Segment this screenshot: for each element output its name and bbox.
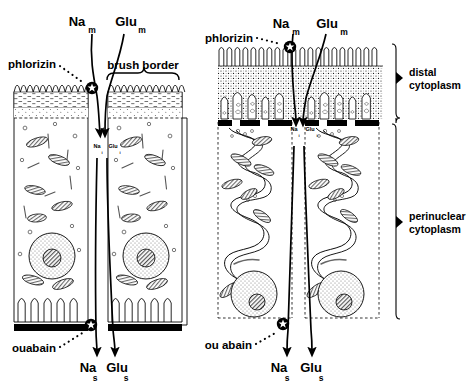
- brush-border-label: brush border: [107, 59, 179, 71]
- basement-membrane: [108, 324, 182, 331]
- basement-membrane: [14, 324, 88, 331]
- basal-lamina-segments: [305, 120, 379, 126]
- right-glucose-basal-subscript: s: [319, 373, 324, 383]
- basal-lamina-segments: [218, 120, 292, 126]
- phlorizin-inhibition-starburst-icon: [284, 41, 296, 53]
- left-sodium-intracellular-label: Na: [93, 143, 101, 149]
- right-glucose-apical-label: Glu: [316, 16, 338, 31]
- left-glucose-basal-subscript: s: [124, 373, 129, 383]
- left-phlorizin-label: phlorizin: [8, 58, 56, 70]
- terminal-web-band: [14, 92, 88, 108]
- nucleus: [231, 271, 277, 317]
- right-sodium-intracellular-label: Na: [290, 126, 298, 132]
- right-glucose-apical-subscript: m: [340, 27, 348, 37]
- nucleolus: [43, 249, 61, 267]
- right-sodium-intracellular-subscript: i: [298, 133, 299, 138]
- distal-cytoplasm-stipple: [218, 66, 383, 119]
- left-glucose-intracellular-label: Glu: [108, 143, 117, 149]
- left-sodium-intracellular-subscript: i: [101, 150, 102, 155]
- right-sodium-apical-label: Na: [273, 16, 290, 31]
- ouabain-inhibition-starburst-icon: [277, 318, 289, 330]
- left-cell-A: [14, 85, 91, 331]
- ouabain-inhibition-starburst-icon: [85, 319, 97, 331]
- distal-cytoplasm-label-line1: distal: [409, 66, 437, 78]
- nucleolus: [137, 249, 155, 267]
- left-sodium-apical-subscript: m: [88, 25, 96, 35]
- right-glucose-intracellular-subscript: i: [316, 133, 317, 138]
- nucleolus: [249, 294, 265, 310]
- left-cell-B: [108, 85, 185, 331]
- right-phlorizin-label: phlorizin: [205, 32, 253, 44]
- nucleus: [29, 233, 75, 279]
- left-glucose-apical-subscript: m: [138, 25, 146, 35]
- phlorizin-inhibition-starburst-icon: [86, 82, 98, 94]
- right-glucose-intracellular-label: Glu: [305, 126, 314, 132]
- left-sodium-apical-label: Na: [69, 14, 86, 29]
- left-ouabain-label: ouabain: [12, 342, 56, 354]
- left-sodium-basal-subscript: s: [93, 373, 98, 383]
- left-glucose-apical-label: Glu: [115, 14, 137, 29]
- perinuclear-cytoplasm-label-line1: perinuclear: [409, 210, 466, 222]
- distal-cytoplasm-label-line2: cytoplasm: [409, 79, 461, 91]
- subapical-stipple: [14, 108, 88, 118]
- diagram-canvas: Na m Glu m phlorizin brush border Na i G…: [0, 0, 467, 387]
- nucleus: [123, 233, 169, 279]
- left-glucose-intracellular-subscript: i: [119, 150, 120, 155]
- terminal-web-band: [108, 92, 182, 108]
- nucleolus: [336, 294, 352, 310]
- figure-root: Na m Glu m phlorizin brush border Na i G…: [0, 0, 467, 387]
- perinuclear-cytoplasm-label-line2: cytoplasm: [409, 223, 461, 235]
- right-sodium-basal-subscript: s: [285, 373, 290, 383]
- nucleus: [318, 271, 364, 317]
- right-sodium-apical-subscript: m: [292, 27, 300, 37]
- right-ouabain-label: ou abain: [205, 339, 252, 351]
- subapical-stipple: [108, 108, 182, 118]
